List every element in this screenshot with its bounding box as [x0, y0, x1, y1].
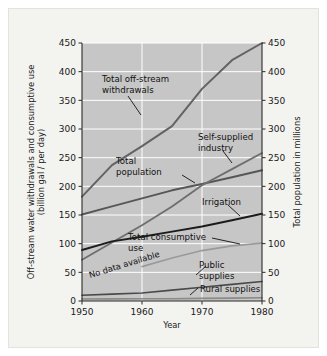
- x-tick-label: 1980: [251, 307, 274, 317]
- y2-tick-label: 50: [268, 268, 280, 278]
- y2-tick-label: 150: [268, 210, 285, 220]
- label-public-supplies-line2: supplies: [199, 271, 235, 281]
- y-tick-label: 350: [59, 96, 76, 106]
- y-tick-label: 200: [59, 182, 76, 192]
- y-tick-label: 250: [59, 153, 76, 163]
- y2-tick-label: 450: [268, 38, 285, 48]
- y2-axis-title: Total population in millions: [292, 117, 302, 229]
- label-consumptive-use-line1: Total consumptive: [127, 232, 206, 242]
- y-axis-title-line2: (billion gal / per day): [36, 129, 46, 215]
- y-tick-label: 400: [59, 67, 76, 77]
- y2-axis-title-text: Total population in millions: [292, 117, 302, 229]
- y-tick-label: 150: [59, 210, 76, 220]
- y-axis-title: Off-stream water withdrawals and consump…: [26, 65, 46, 280]
- y2-tick-label: 100: [268, 239, 285, 249]
- label-consumptive-use-line2: use: [128, 243, 143, 253]
- x-tick-label: 1950: [71, 307, 94, 317]
- line-chart: 0050501001001501502002002502503003003503…: [0, 0, 327, 356]
- y-tick-label: 100: [59, 239, 76, 249]
- y-tick-label: 50: [65, 268, 77, 278]
- y2-tick-label: 0: [268, 296, 274, 306]
- y-tick-label: 300: [59, 124, 76, 134]
- label-self-supplied-line1: Self-supplied: [198, 132, 253, 142]
- y2-tick-label: 350: [268, 96, 285, 106]
- y-axis-title-line1: Off-stream water withdrawals and consump…: [26, 65, 36, 280]
- label-irrigation: Irrigation: [202, 197, 241, 207]
- label-total-population-line2: population: [116, 167, 162, 177]
- label-total-population-line1: Total: [115, 156, 136, 166]
- label-self-supplied-line2: industry: [198, 143, 233, 153]
- label-rural-supplies: Rural supplies: [200, 284, 261, 294]
- y-tick-label: 450: [59, 38, 76, 48]
- y-tick-label: 0: [70, 296, 76, 306]
- x-axis-title: Year: [162, 320, 181, 330]
- y2-tick-label: 250: [268, 153, 285, 163]
- y2-tick-label: 400: [268, 67, 285, 77]
- label-public-supplies-line1: Public: [199, 260, 225, 270]
- y2-tick-label: 200: [268, 182, 285, 192]
- y2-tick-label: 300: [268, 124, 285, 134]
- x-tick-label: 1970: [191, 307, 214, 317]
- figure-container: 0050501001001501502002002502503003003503…: [0, 0, 327, 356]
- label-total-offstream-line1: Total off-stream: [101, 74, 169, 84]
- label-total-offstream-line2: withdrawals: [102, 85, 154, 95]
- x-tick-label: 1960: [131, 307, 154, 317]
